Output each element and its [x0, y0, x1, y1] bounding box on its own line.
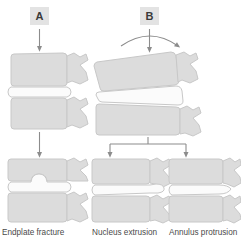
vertebra-body-lower: [8, 193, 67, 222]
spinous-process-lower: [150, 195, 171, 223]
vertebra-body-lower: [96, 104, 180, 135]
panel-b-flexed-segment: [94, 52, 201, 136]
disc-with-nucleus-extrusion: [92, 184, 164, 195]
annulus-protrusion-result: [169, 158, 241, 223]
caption-endplate-fracture: Endplate fracture: [2, 228, 64, 237]
intervertebral-disc: [8, 87, 71, 97]
panel-a-intact-segment: [8, 53, 88, 129]
caption-annulus-protrusion: Annulus protrusion: [169, 228, 237, 237]
arrow-b-branch: [110, 137, 186, 155]
figure-canvas: A B Endplate fracture Nucleus extrusion …: [0, 0, 241, 245]
vertebra-body-upper: [169, 159, 223, 184]
endplate-fracture-result: [8, 158, 88, 222]
caption-nucleus-extrusion: Nucleus extrusion: [92, 228, 157, 237]
spinous-process-lower: [180, 106, 201, 136]
spinous-process-upper: [67, 53, 88, 84]
spinous-process-lower: [67, 97, 88, 128]
panel-label-a-text: A: [36, 10, 44, 22]
spinous-process-lower: [223, 195, 241, 223]
spinous-process-upper: [150, 158, 171, 187]
panel-label-b: B: [140, 7, 159, 25]
vertebra-body-lower: [92, 196, 150, 222]
vertebra-body-lower: [11, 98, 67, 129]
spine-pathology-diagram: [0, 0, 241, 245]
spinous-process-upper: [176, 52, 198, 83]
vertebra-body-upper: [94, 52, 179, 91]
spinous-process-upper: [67, 158, 88, 181]
disc-with-annulus-protrusion: [169, 185, 231, 195]
spinous-process-upper: [223, 158, 241, 187]
panel-label-a: A: [30, 7, 49, 25]
vertebra-body-upper: [92, 159, 150, 184]
panel-label-b-text: B: [146, 10, 154, 22]
vertebra-body-lower: [169, 196, 223, 222]
spinous-process-lower: [67, 192, 88, 222]
vertebra-body-upper: [11, 53, 67, 86]
nucleus-extrusion-result: [92, 158, 171, 223]
